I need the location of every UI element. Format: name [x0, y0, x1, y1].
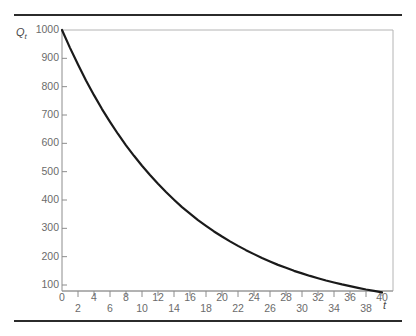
chart-svg	[0, 0, 416, 336]
decay-curve	[62, 30, 382, 292]
x-tick-label: 34	[328, 303, 340, 314]
x-tick-label: 14	[168, 303, 180, 314]
x-tick-label: 16	[184, 292, 196, 303]
y-axis	[62, 30, 67, 291]
y-tick-label: 700	[41, 109, 59, 120]
x-tick-label: 12	[152, 292, 164, 303]
x-tick-label: 0	[59, 292, 65, 303]
y-axis-title-subscript: t	[25, 32, 27, 41]
x-tick-label: 36	[344, 292, 356, 303]
y-tick-label: 100	[41, 279, 59, 290]
y-tick-label: 800	[41, 81, 59, 92]
x-tick-label: 38	[360, 303, 372, 314]
y-axis-title: Qt	[16, 27, 27, 41]
x-tick-label: 2	[75, 303, 81, 314]
x-tick-label: 24	[248, 292, 260, 303]
x-axis-title: t	[383, 300, 386, 311]
y-tick-label: 300	[41, 222, 59, 233]
y-tick-label: 600	[41, 137, 59, 148]
x-tick-label: 4	[91, 292, 97, 303]
x-tick-label: 8	[123, 292, 129, 303]
x-tick-label: 6	[107, 303, 113, 314]
x-tick-label: 10	[136, 303, 148, 314]
x-tick-label: 22	[232, 303, 244, 314]
x-tick-label: 28	[280, 292, 292, 303]
figure-container: 1002003004005006007008009001000024681012…	[0, 0, 416, 336]
y-tick-label: 900	[41, 52, 59, 63]
x-tick-label: 26	[264, 303, 276, 314]
x-tick-label: 18	[200, 303, 212, 314]
plot-frame	[62, 30, 393, 291]
x-tick-label: 32	[312, 292, 324, 303]
y-tick-label: 1000	[36, 24, 59, 35]
y-tick-label: 500	[41, 166, 59, 177]
x-tick-label: 20	[216, 292, 228, 303]
x-tick-label: 30	[296, 303, 308, 314]
y-axis-title-base: Q	[16, 26, 25, 38]
chart-plot-area	[0, 0, 416, 336]
y-tick-label: 200	[41, 251, 59, 262]
y-tick-label: 400	[41, 194, 59, 205]
